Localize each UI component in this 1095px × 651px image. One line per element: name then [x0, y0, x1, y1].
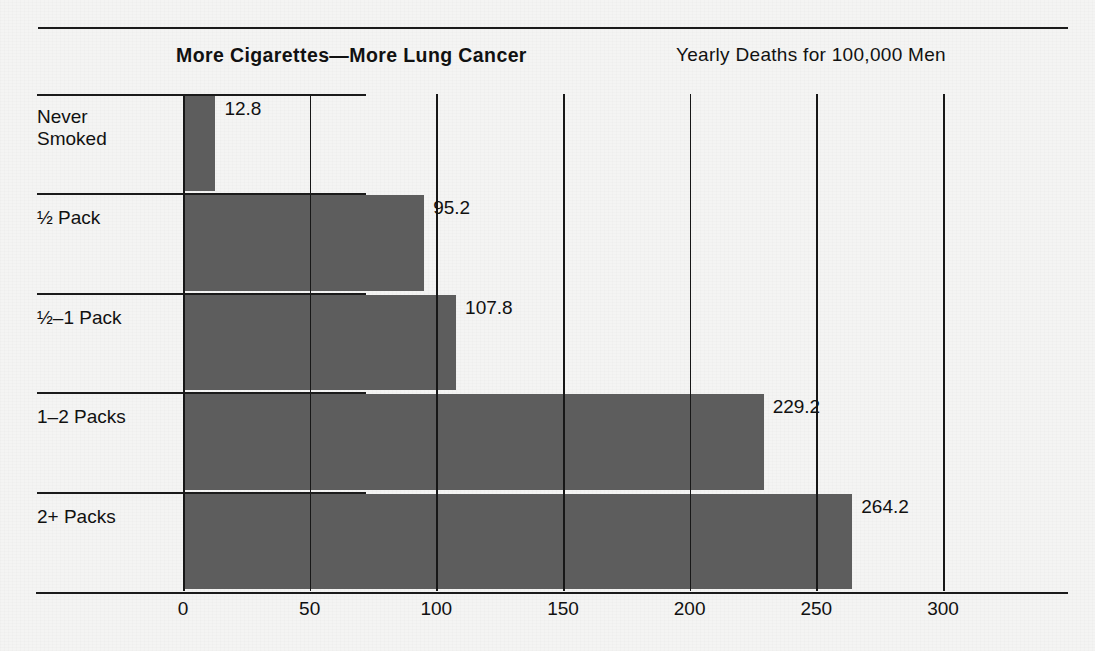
bar-row: ½–1 Pack 107.8	[183, 293, 943, 392]
bar-row: 2+ Packs 264.2	[183, 492, 943, 591]
row-divider	[37, 193, 366, 195]
x-tick-label-0: 0	[178, 598, 189, 620]
x-tick-label-150: 150	[547, 598, 579, 620]
chart-title: More Cigarettes—More Lung Cancer	[176, 44, 527, 67]
category-label: ½–1 Pack	[37, 307, 177, 329]
category-label: Never Smoked	[37, 106, 177, 150]
bar-value-label: 229.2	[773, 396, 821, 418]
x-tick-label-200: 200	[674, 598, 706, 620]
plot-area: Never Smoked 12.8 ½ Pack 95.2 ½–1 Pack 1…	[183, 94, 943, 591]
row-divider	[37, 293, 366, 295]
bar-row: Never Smoked 12.8	[183, 94, 943, 193]
bar-chart-figure: More Cigarettes—More Lung Cancer Yearly …	[0, 0, 1095, 651]
chart-subtitle: Yearly Deaths for 100,000 Men	[676, 44, 946, 66]
bar-value-label: 107.8	[465, 297, 513, 319]
gridline-300	[943, 94, 945, 591]
bar[interactable]	[183, 394, 764, 489]
bar-value-label: 95.2	[433, 197, 470, 219]
bar[interactable]	[183, 494, 852, 589]
bar[interactable]	[183, 96, 215, 191]
x-axis-tick-labels: 050100150200250300	[183, 598, 943, 628]
row-divider	[37, 392, 366, 394]
bar[interactable]	[183, 195, 424, 290]
x-tick-label-300: 300	[927, 598, 959, 620]
category-label: 2+ Packs	[37, 506, 177, 528]
category-label: 1–2 Packs	[37, 406, 177, 428]
row-divider	[37, 492, 366, 494]
category-label: ½ Pack	[37, 207, 177, 229]
bar[interactable]	[183, 295, 456, 390]
x-tick-label-250: 250	[800, 598, 832, 620]
row-divider	[37, 94, 366, 96]
x-tick-label-100: 100	[420, 598, 452, 620]
top-rule	[38, 27, 1068, 29]
bar-value-label: 12.8	[224, 98, 261, 120]
x-axis-line	[36, 592, 1068, 594]
bar-row: 1–2 Packs 229.2	[183, 392, 943, 491]
bar-row: ½ Pack 95.2	[183, 193, 943, 292]
x-tick-label-50: 50	[299, 598, 320, 620]
bar-value-label: 264.2	[861, 496, 909, 518]
